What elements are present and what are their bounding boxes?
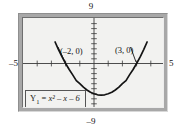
equation-function-index: 1 bbox=[36, 98, 39, 105]
graphing-calculator-figure: 9 –9 –5 5 bbox=[0, 0, 182, 130]
left-intercept-label: (–2, 0) bbox=[60, 47, 83, 56]
calculator-screen-frame: (–2, 0) (3, 0) Y1 = x² – x – 6 bbox=[18, 13, 168, 112]
window-ymin-label: –9 bbox=[0, 117, 182, 126]
equation-expression: x² – x – 6 bbox=[48, 93, 79, 103]
window-xmax-label: 5 bbox=[169, 59, 182, 68]
right-intercept-label: (3, 0) bbox=[115, 46, 133, 55]
calculator-screen: (–2, 0) (3, 0) Y1 = x² – x – 6 bbox=[22, 17, 164, 108]
equation-equals-sign: = bbox=[42, 93, 47, 103]
window-ymax-label: 9 bbox=[0, 2, 182, 11]
window-xmin-label: –5 bbox=[1, 59, 18, 68]
equation-legend-box: Y1 = x² – x – 6 bbox=[25, 90, 86, 108]
